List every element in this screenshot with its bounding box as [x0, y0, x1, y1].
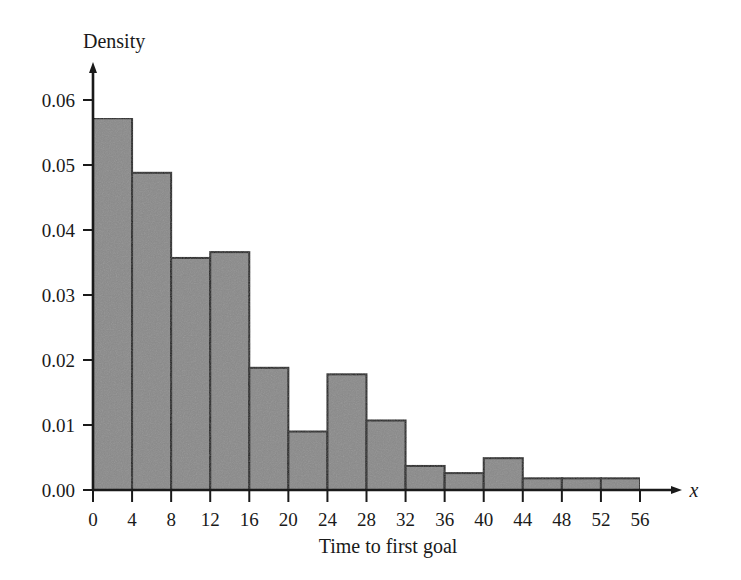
histogram-bar	[406, 466, 445, 490]
x-tick-label: 56	[631, 509, 650, 530]
x-tick-label: 8	[166, 509, 176, 530]
x-tick-label: 48	[552, 509, 571, 530]
bars-group	[93, 118, 640, 490]
x-axis-title: Time to first goal	[319, 535, 458, 558]
x-tick-label: 28	[357, 509, 376, 530]
histogram-bar	[327, 374, 366, 490]
y-tick-label: 0.06	[42, 90, 75, 111]
x-ticks-group: 048121620242832364044485256	[88, 490, 649, 530]
x-tick-label: 52	[591, 509, 610, 530]
histogram-bar	[484, 458, 523, 490]
histogram-bar	[601, 478, 640, 490]
histogram-canvas: 0.000.010.020.030.040.050.06 04812162024…	[0, 0, 741, 580]
histogram-bar	[288, 432, 327, 491]
x-tick-label: 4	[127, 509, 137, 530]
y-ticks-group: 0.000.010.020.030.040.050.06	[42, 90, 93, 501]
histogram-bar	[171, 258, 210, 490]
y-axis-title: Density	[83, 30, 145, 53]
x-tick-label: 44	[513, 509, 533, 530]
x-tick-label: 16	[240, 509, 259, 530]
histogram-bar	[93, 118, 132, 490]
histogram-bar	[210, 252, 249, 490]
y-tick-label: 0.04	[42, 220, 76, 241]
x-tick-label: 0	[88, 509, 98, 530]
histogram-figure: 0.000.010.020.030.040.050.06 04812162024…	[0, 0, 741, 580]
y-tick-label: 0.03	[42, 285, 75, 306]
x-tick-label: 20	[279, 509, 298, 530]
y-tick-label: 0.05	[42, 155, 75, 176]
histogram-bar	[523, 478, 562, 490]
histogram-bar	[132, 173, 171, 490]
histogram-bar	[249, 368, 288, 490]
x-tick-label: 24	[318, 509, 338, 530]
x-tick-label: 36	[435, 509, 454, 530]
x-tick-label: 12	[201, 509, 220, 530]
histogram-bar	[562, 478, 601, 490]
y-tick-label: 0.02	[42, 350, 75, 371]
histogram-bar	[367, 420, 406, 490]
y-tick-label: 0.00	[42, 480, 75, 501]
x-axis-variable-label: x	[689, 479, 699, 501]
x-tick-label: 32	[396, 509, 415, 530]
x-tick-label: 40	[474, 509, 493, 530]
y-tick-label: 0.01	[42, 415, 75, 436]
histogram-bar	[445, 473, 484, 490]
